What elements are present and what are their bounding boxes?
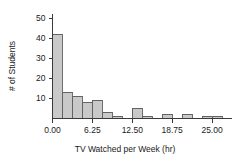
histogram-bar — [92, 100, 102, 118]
x-axis-title: TV Watched per Week (hr) — [75, 144, 176, 154]
histogram-chart: 1020304050 0.006.2512.5018.7525.00 TV Wa… — [0, 0, 240, 161]
histogram-bar — [102, 112, 112, 118]
histogram-bar — [53, 34, 63, 118]
histogram-bar — [82, 102, 92, 118]
y-tick-label: 10 — [36, 93, 46, 103]
y-tick-label: 30 — [36, 53, 46, 63]
y-axis-title: # of Students — [7, 41, 17, 91]
chart-canvas: 1020304050 0.006.2512.5018.7525.00 TV Wa… — [0, 0, 240, 161]
histogram-bar — [132, 108, 142, 118]
y-tick-label: 50 — [36, 13, 46, 23]
histogram-bar — [62, 92, 72, 118]
x-tick-label: 0.00 — [44, 125, 61, 135]
x-tick-label: 12.50 — [122, 125, 144, 135]
x-tick-label: 25.00 — [201, 125, 223, 135]
histogram-bar — [182, 114, 192, 118]
y-tick-label: 40 — [36, 33, 46, 43]
histogram-bar — [162, 114, 172, 118]
x-tick-label: 6.25 — [84, 125, 101, 135]
x-tick-label: 18.75 — [162, 125, 184, 135]
y-tick-label: 20 — [36, 73, 46, 83]
histogram-bar — [72, 96, 82, 118]
